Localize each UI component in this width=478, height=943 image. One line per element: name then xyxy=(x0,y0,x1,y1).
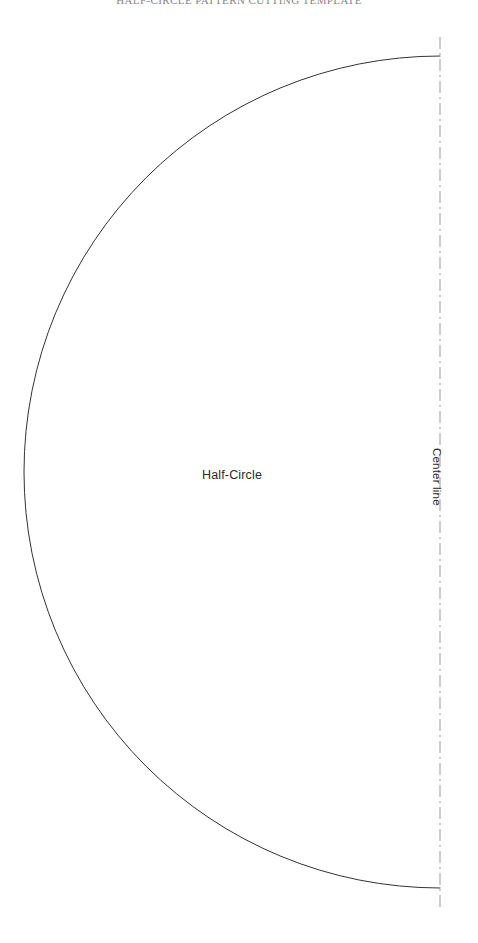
half-circle-label: Half-Circle xyxy=(202,468,262,482)
page-canvas: HALF-CIRCLE PATTERN CUTTING TEMPLATE Hal… xyxy=(0,0,478,943)
center-line-label: Center line xyxy=(431,448,443,506)
